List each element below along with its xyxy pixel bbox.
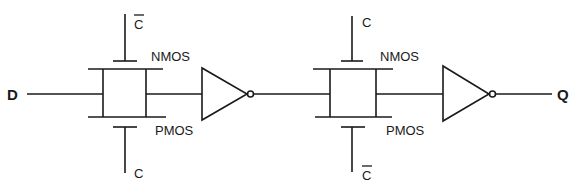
transmission-gate-1: C NMOS PMOS C [88, 14, 194, 181]
inverter-1 [202, 68, 254, 120]
pmos-label-1: PMOS [155, 123, 194, 138]
inverter-1-triangle [202, 68, 247, 120]
nmos-label-2: NMOS [380, 49, 419, 64]
output-label-q: Q [557, 86, 569, 103]
nmos-gate-signal-2: C [362, 15, 371, 30]
inverter-2-triangle [443, 66, 489, 121]
inverter-2 [443, 66, 496, 121]
pmos-label-2: PMOS [386, 123, 425, 138]
nmos-gate-signal-1: C [134, 17, 143, 32]
transmission-gate-2: C NMOS PMOS C [313, 15, 425, 183]
d-flip-flop-schematic: D C NMOS PMOS C C NMOS [0, 0, 572, 190]
pmos-gate-signal-2: C [362, 168, 371, 183]
pmos-gate-signal-1: C [134, 166, 143, 181]
input-label-d: D [7, 86, 18, 103]
nmos-label-1: NMOS [151, 49, 190, 64]
